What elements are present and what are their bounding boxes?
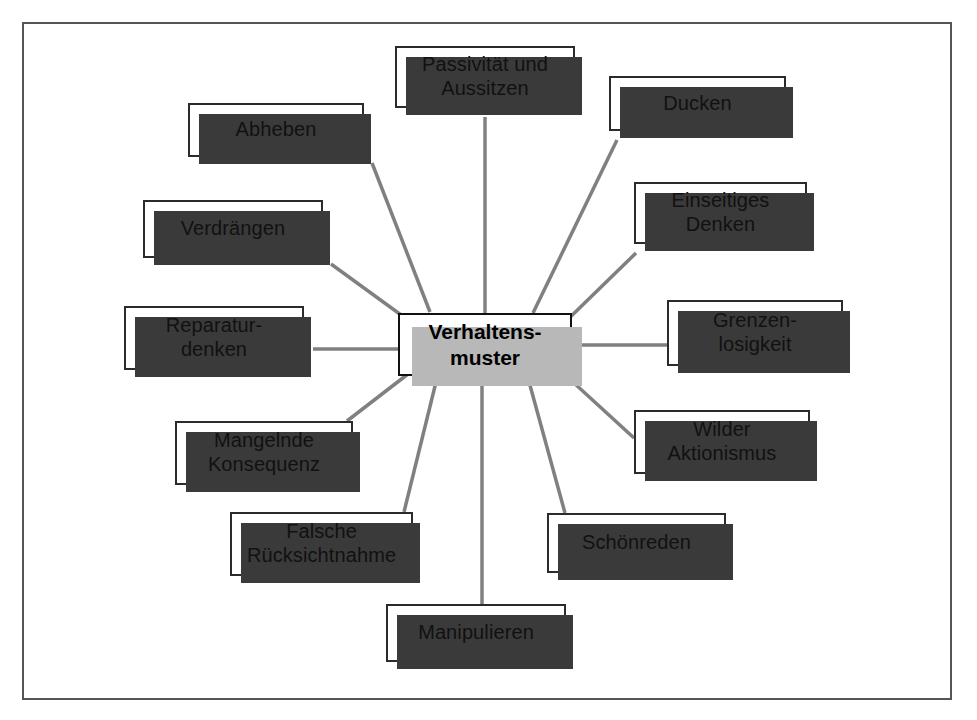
node-label: Verdrängen [175,217,291,241]
node-label: Mangelnde Konsequenz [202,429,326,476]
node-label: Falsche Rücksichtnahme [241,520,402,567]
satellite-node[interactable]: Abheben [188,103,364,157]
connector-line [331,264,408,320]
satellite-node[interactable]: Passivität und Aussitzen [395,46,575,108]
satellite-node[interactable]: Wilder Aktionismus [634,410,810,474]
connector-line [528,378,565,513]
satellite-node[interactable]: Schönreden [547,513,726,573]
center-node-verhaltensmuster[interactable]: Verhaltens- muster [398,313,572,376]
diagram-canvas: Verhaltens- muster Passivität und Aussit… [0,0,977,720]
satellite-node[interactable]: Grenzen- losigkeit [667,300,843,366]
connector-line [404,378,437,512]
satellite-node[interactable]: Manipulieren [386,604,566,662]
satellite-node[interactable]: Mangelnde Konsequenz [175,421,353,485]
center-node-label: Verhaltens- muster [428,319,541,369]
connector-line [372,163,430,312]
node-label: Einseitiges Denken [666,189,776,236]
satellite-node[interactable]: Verdrängen [143,200,323,258]
node-label: Reparatur- denken [160,314,269,361]
satellite-node[interactable]: Einseitiges Denken [634,182,807,244]
connector-line [347,374,408,421]
connector-line [533,140,617,313]
satellite-node[interactable]: Ducken [609,76,786,131]
satellite-node[interactable]: Falsche Rücksichtnahme [230,512,413,576]
node-label: Manipulieren [412,621,540,645]
node-label: Abheben [230,118,323,142]
node-label: Ducken [657,92,737,116]
node-label: Passivität und Aussitzen [416,53,554,100]
node-label: Wilder Aktionismus [662,418,783,465]
node-label: Schönreden [576,531,697,555]
satellite-node[interactable]: Reparatur- denken [124,306,304,370]
node-label: Grenzen- losigkeit [707,309,803,356]
